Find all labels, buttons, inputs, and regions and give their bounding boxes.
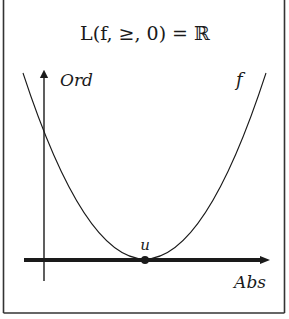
curve-label: f xyxy=(234,69,246,90)
x-axis-label: Abs xyxy=(232,272,266,292)
parabola-curve xyxy=(23,73,266,259)
vertex-label: u xyxy=(140,236,150,254)
frame xyxy=(4,0,285,313)
x-axis-arrow-icon xyxy=(260,256,270,264)
vertex-point xyxy=(141,256,149,264)
diagram-title: L(f, ≥, 0) = ℝ xyxy=(80,22,210,44)
diagram: L(f, ≥, 0) = ℝ Ord f u Abs xyxy=(0,0,289,319)
y-axis-label: Ord xyxy=(60,70,93,90)
